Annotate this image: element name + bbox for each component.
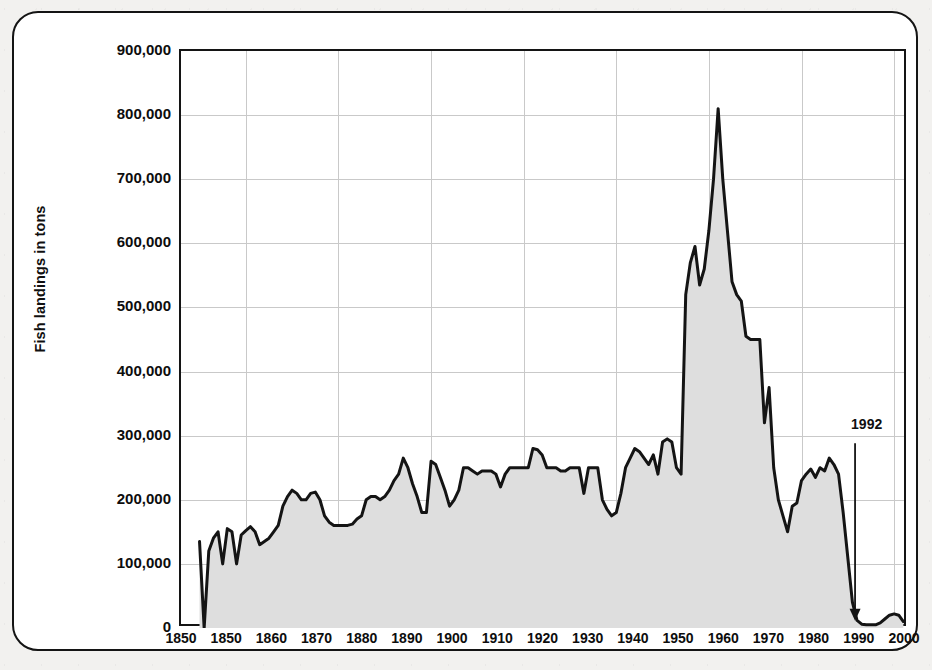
x-axis-tick-labels: 1850185018601870188018901900191019201930…	[179, 630, 906, 656]
x-tick-label: 2000	[874, 630, 932, 646]
y-axis-tick-labels: 0100,000200,000300,000400,000500,000600,…	[14, 49, 171, 626]
figure-root: Fish landings in tons 0100,000200,000300…	[0, 0, 932, 670]
figure-card: Fish landings in tons 0100,000200,000300…	[12, 11, 918, 651]
y-tick-label: 500,000	[21, 297, 171, 314]
y-tick-label: 300,000	[21, 425, 171, 442]
series-fill	[200, 109, 904, 628]
y-tick-label: 800,000	[21, 105, 171, 122]
y-tick-label: 700,000	[21, 169, 171, 186]
y-tick-label: 400,000	[21, 361, 171, 378]
y-tick-label: 100,000	[21, 553, 171, 570]
fish-landings-area-series	[181, 51, 908, 628]
y-tick-label: 0	[21, 618, 171, 635]
y-tick-label: 900,000	[21, 41, 171, 58]
y-tick-label: 200,000	[21, 489, 171, 506]
plot-area	[179, 49, 906, 626]
y-tick-label: 600,000	[21, 233, 171, 250]
